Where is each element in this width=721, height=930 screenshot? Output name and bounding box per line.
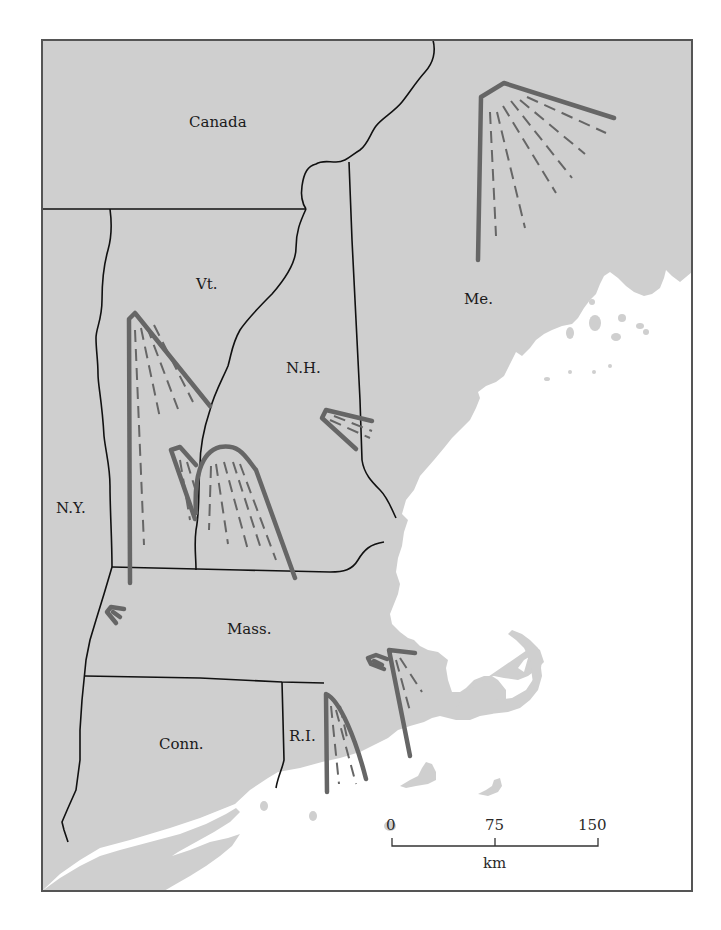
new-england-map: Canada Vt. N.H. Me. N.Y. Mass. Conn. R.I… [0,0,721,930]
scale-tick-0: 0 [386,816,396,834]
label-new-hampshire: N.H. [286,359,321,377]
scale-unit: km [483,854,506,872]
label-connecticut: Conn. [159,735,204,753]
label-vermont: Vt. [195,275,218,293]
label-maine: Me. [464,290,493,308]
label-rhode-island: R.I. [289,727,316,745]
scale-tick-75: 75 [485,816,504,834]
land-mass [42,40,692,891]
label-massachusetts: Mass. [227,620,271,638]
label-canada: Canada [189,113,247,131]
scale-tick-150: 150 [578,816,607,834]
label-new-york: N.Y. [56,499,86,517]
